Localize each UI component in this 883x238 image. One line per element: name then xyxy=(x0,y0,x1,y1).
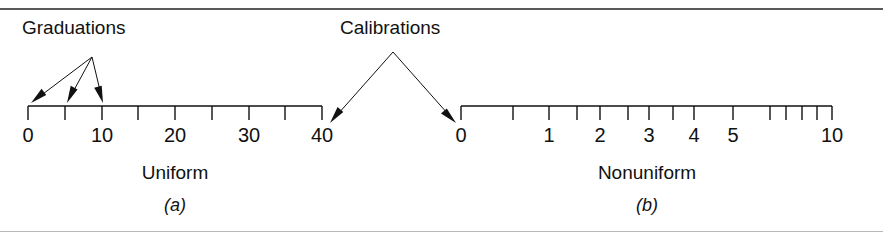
callout-leader-lines xyxy=(41,52,447,113)
arrowhead-graduations-2 xyxy=(94,86,103,103)
leader-line-graduations-0 xyxy=(41,57,92,95)
callout-label-graduations: Graduations xyxy=(22,18,126,37)
leader-line-graduations-1 xyxy=(73,57,92,92)
callout-arrowheads xyxy=(31,86,456,123)
scale-name-uniform: Uniform xyxy=(142,163,209,182)
leader-line-graduations-2 xyxy=(92,57,100,90)
scale-axis-lines xyxy=(28,106,832,120)
part-label-b: (b) xyxy=(636,196,658,214)
leader-line-calibrations-0 xyxy=(339,52,393,113)
arrowhead-calibrations-1 xyxy=(441,108,456,123)
tick-label-uniform-20: 20 xyxy=(164,125,186,145)
tick-label-nonuniform-0: 0 xyxy=(455,125,466,145)
tick-label-uniform-0: 0 xyxy=(22,125,33,145)
part-label-a: (a) xyxy=(164,196,186,214)
arrowhead-calibrations-0 xyxy=(330,107,343,123)
tick-label-nonuniform-3: 3 xyxy=(643,125,654,145)
tick-label-uniform-40: 40 xyxy=(311,125,333,145)
scale-artwork xyxy=(0,0,883,238)
arrowhead-graduations-0 xyxy=(31,89,46,103)
tick-label-uniform-10: 10 xyxy=(91,125,113,145)
scale-name-nonuniform: Nonuniform xyxy=(598,163,696,182)
leader-line-calibrations-1 xyxy=(393,52,447,113)
tick-label-nonuniform-5: 5 xyxy=(727,125,738,145)
tick-label-nonuniform-4: 4 xyxy=(688,125,699,145)
tick-label-nonuniform-10: 10 xyxy=(821,125,843,145)
tick-label-uniform-30: 30 xyxy=(238,125,260,145)
tick-label-nonuniform-1: 1 xyxy=(543,125,554,145)
tick-label-nonuniform-2: 2 xyxy=(594,125,605,145)
figure-scales-comparison: Graduations Calibrations Uniform (a) Non… xyxy=(0,0,883,238)
callout-label-calibrations: Calibrations xyxy=(340,18,440,37)
arrowhead-graduations-1 xyxy=(67,86,78,103)
